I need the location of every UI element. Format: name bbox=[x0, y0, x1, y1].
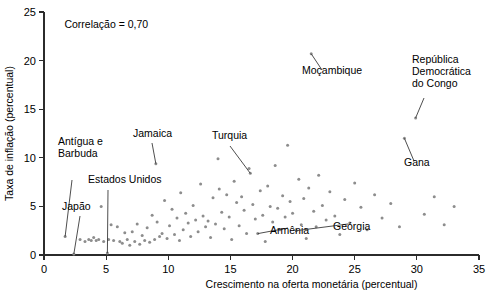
callout-label-line: Antígua e bbox=[58, 135, 103, 147]
data-point bbox=[97, 238, 100, 241]
x-axis-title: Crescimento na oferta monetária (percent… bbox=[206, 278, 418, 290]
data-point bbox=[171, 208, 174, 211]
callout-label-line: do Congo bbox=[412, 77, 458, 89]
data-point bbox=[312, 210, 315, 213]
data-point bbox=[182, 228, 185, 231]
data-point bbox=[90, 239, 93, 242]
correlation-annotation: Correlação = 0,70 bbox=[64, 18, 148, 30]
data-point bbox=[175, 217, 178, 220]
callout-label: Turquia bbox=[212, 129, 247, 141]
callout-leader-line bbox=[230, 146, 250, 173]
x-tick-label: 35 bbox=[473, 263, 485, 275]
x-tick-label: 0 bbox=[41, 263, 47, 275]
x-axis-ticks: 05101520253035 bbox=[41, 255, 485, 275]
data-point bbox=[194, 219, 197, 222]
data-point bbox=[121, 242, 124, 245]
data-point bbox=[143, 239, 146, 242]
data-point bbox=[209, 236, 212, 239]
data-point bbox=[423, 213, 426, 216]
data-point bbox=[433, 195, 436, 198]
x-tick-label: 25 bbox=[349, 263, 361, 275]
data-point bbox=[112, 239, 115, 242]
x-tick-label: 5 bbox=[103, 263, 109, 275]
callout-label-line: Estados Unidos bbox=[88, 173, 162, 185]
data-point bbox=[148, 241, 151, 244]
data-point bbox=[189, 235, 192, 238]
callout-label-line: Moçambique bbox=[302, 64, 362, 76]
data-point bbox=[141, 234, 144, 237]
callout-label-line: Japão bbox=[62, 200, 91, 212]
data-point bbox=[291, 212, 294, 215]
data-point bbox=[184, 212, 187, 215]
data-point bbox=[325, 219, 328, 222]
y-tick-label: 15 bbox=[24, 103, 36, 115]
data-point bbox=[128, 244, 131, 247]
data-point bbox=[259, 189, 262, 192]
data-point bbox=[214, 222, 217, 225]
data-point bbox=[220, 211, 223, 214]
data-point bbox=[202, 215, 205, 218]
data-point bbox=[343, 198, 346, 201]
data-point bbox=[240, 195, 243, 198]
data-point bbox=[453, 205, 456, 208]
data-point bbox=[118, 240, 121, 243]
callout-label: RepúblicaDemocráticado Congo bbox=[412, 53, 471, 89]
data-point bbox=[84, 240, 87, 243]
callout-label-line: Barbuda bbox=[58, 147, 98, 159]
data-point bbox=[133, 240, 136, 243]
callout-label: Geórgia bbox=[333, 220, 371, 232]
data-point bbox=[153, 238, 156, 241]
data-point bbox=[338, 233, 341, 236]
callout-label: Antígua eBarbuda bbox=[58, 135, 103, 159]
callout-leader-line bbox=[152, 143, 156, 164]
data-point bbox=[269, 205, 272, 208]
data-point bbox=[102, 240, 105, 243]
data-point bbox=[233, 180, 236, 183]
data-point bbox=[146, 226, 149, 229]
data-point bbox=[389, 202, 392, 205]
data-point bbox=[266, 184, 269, 187]
data-point bbox=[297, 178, 300, 181]
data-point bbox=[204, 225, 207, 228]
callout-leader-line bbox=[416, 98, 424, 118]
data-point bbox=[321, 204, 324, 207]
data-point bbox=[235, 201, 238, 204]
data-point bbox=[238, 224, 241, 227]
data-point bbox=[328, 190, 331, 193]
y-tick-label: 0 bbox=[30, 249, 36, 261]
data-point bbox=[274, 164, 277, 167]
y-tick-label: 20 bbox=[24, 55, 36, 67]
data-point bbox=[116, 225, 119, 228]
data-point bbox=[317, 174, 320, 177]
data-point bbox=[254, 218, 257, 221]
data-point bbox=[286, 144, 289, 147]
data-point bbox=[192, 204, 195, 207]
data-point bbox=[178, 239, 181, 242]
data-point bbox=[271, 220, 274, 223]
data-point bbox=[173, 233, 176, 236]
x-tick-label: 15 bbox=[224, 263, 236, 275]
data-point bbox=[225, 193, 228, 196]
callout-label-line: Democrática bbox=[412, 65, 471, 77]
callout-label: Gana bbox=[404, 156, 430, 168]
data-point bbox=[92, 236, 95, 239]
callout-label: Japão bbox=[62, 200, 91, 212]
data-point bbox=[151, 214, 154, 217]
data-point bbox=[223, 227, 226, 230]
callout-label-line: Gana bbox=[404, 156, 430, 168]
y-tick-label: 10 bbox=[24, 152, 36, 164]
axis-lines bbox=[44, 12, 479, 255]
data-point bbox=[207, 219, 210, 222]
data-point bbox=[126, 238, 129, 241]
data-point bbox=[230, 238, 233, 241]
data-point bbox=[217, 157, 220, 160]
data-point bbox=[398, 225, 401, 228]
data-point bbox=[79, 238, 82, 241]
data-point bbox=[281, 194, 284, 197]
data-point bbox=[228, 216, 231, 219]
data-point bbox=[353, 182, 356, 185]
data-point bbox=[179, 191, 182, 194]
data-point bbox=[264, 240, 267, 243]
data-point bbox=[443, 223, 446, 226]
data-point bbox=[245, 232, 248, 235]
